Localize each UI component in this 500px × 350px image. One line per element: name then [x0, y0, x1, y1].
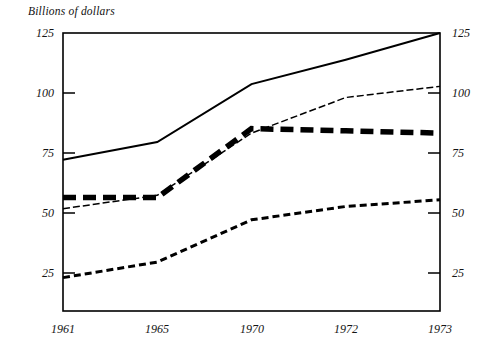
y-axis-left-label-25: 25 — [20, 266, 54, 281]
y-axis-left-label-50: 50 — [20, 206, 54, 221]
y-axis-right-label-75: 75 — [452, 146, 486, 161]
chart-figure: Billions of dollars 125 100 75 50 25 — [0, 0, 500, 350]
y-axis-left-label-125: 125 — [20, 26, 54, 41]
plot-area — [0, 0, 500, 350]
y-axis-right-label-25: 25 — [452, 266, 486, 281]
series-line-thick-dashed — [63, 129, 440, 198]
x-axis-label-1961: 1961 — [37, 322, 89, 337]
x-axis-label-1970: 1970 — [226, 322, 278, 337]
y-axis-right-label-50: 50 — [452, 206, 486, 221]
x-axis-label-1965: 1965 — [131, 322, 183, 337]
y-axis-left-label-100: 100 — [20, 86, 54, 101]
x-axis-label-1972: 1972 — [320, 322, 372, 337]
series-line-fine-dotted — [63, 200, 440, 278]
y-axis-left-label-75: 75 — [20, 146, 54, 161]
y-axis-right-label-100: 100 — [452, 86, 486, 101]
series-line-solid — [63, 33, 440, 160]
x-axis-label-1973: 1973 — [414, 322, 466, 337]
y-axis-right-label-125: 125 — [452, 26, 486, 41]
series-line-thin-dashed — [63, 86, 440, 208]
y-axis-right-ticks — [428, 93, 440, 273]
y-axis-left-ticks — [63, 93, 75, 273]
